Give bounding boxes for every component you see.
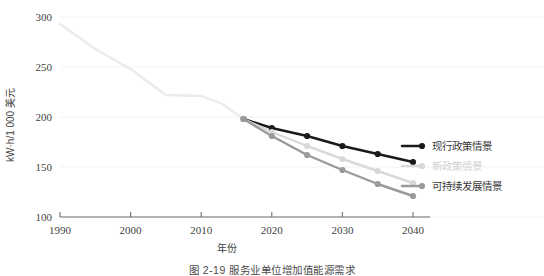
x-axis-tick-labels: 199020002010202020302040 [49,224,425,236]
data-point-marker [375,168,381,174]
legend-marker-0 [419,143,425,149]
data-point-marker [304,152,310,158]
data-point-marker [304,133,310,139]
legend-marker-1 [419,163,425,169]
y-tick-label-250: 250 [36,61,53,73]
data-point-marker [304,143,310,149]
y-tick-label-150: 150 [36,161,53,173]
legend-label-0[interactable]: 现行政策情景 [432,140,492,152]
data-point-marker [410,193,416,199]
series-lines [60,24,413,196]
y-tick-label-100: 100 [36,211,53,223]
x-tick-label-2040: 2040 [402,224,425,236]
series-line-0 [60,24,244,119]
data-point-marker [339,143,345,149]
data-point-marker [375,151,381,157]
legend-label-2[interactable]: 可持续发展情景 [432,180,502,192]
x-tick-label-2030: 2030 [331,224,354,236]
x-tick-label-2000: 2000 [120,224,143,236]
x-tick-label-2010: 2010 [190,224,213,236]
y-axis-label: kW·h/1 000 美元 [4,88,16,162]
data-point-marker [410,159,416,165]
data-point-marker [375,181,381,187]
series-line-1 [244,119,413,162]
y-tick-label-200: 200 [36,111,53,123]
data-point-marker [269,133,275,139]
data-point-marker [339,167,345,173]
legend: 现行政策情景新政策情景可持续发展情景 [402,140,502,192]
line-chart: 100150200250300 199020002010202020302040… [0,0,544,276]
x-tick-label-2020: 2020 [261,224,284,236]
y-tick-label-300: 300 [36,11,53,23]
x-axis-line [60,212,430,217]
data-point-marker [339,156,345,162]
x-tick-label-1990: 1990 [49,224,72,236]
y-axis-tick-labels: 100150200250300 [36,11,53,223]
figure-container: 100150200250300 199020002010202020302040… [0,0,544,276]
legend-marker-2 [419,183,425,189]
x-axis-label: 年份 [217,242,237,254]
legend-label-1[interactable]: 新政策情景 [432,160,482,172]
figure-caption: 图 2-19 服务业单位增加值能源需求 [0,262,544,276]
data-point-marker [240,116,246,122]
